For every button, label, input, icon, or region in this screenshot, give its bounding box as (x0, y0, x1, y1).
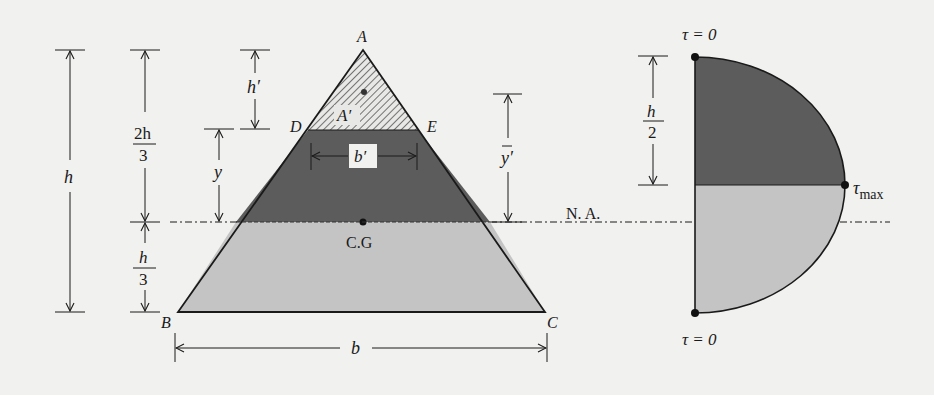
a-prime-centroid-dot (361, 89, 367, 95)
dim-label-h-prime: h′ (247, 77, 261, 97)
dim-label-h: h (64, 167, 73, 187)
dimension-2h-over-3: 2h 3 (130, 50, 160, 222)
vertex-c: C (547, 314, 558, 331)
dimension-y: y (204, 129, 234, 221)
bottom-zero-dot (691, 309, 699, 317)
dim-h3-denominator: 3 (139, 270, 148, 289)
stress-dark-region (695, 57, 845, 185)
dimension-h-prime: h′ (240, 50, 270, 129)
vertex-a: A (356, 28, 367, 45)
vertex-d: D (289, 118, 302, 135)
stress-light-region (695, 185, 845, 313)
shear-stress-diagram: A′ b′ C.G A D E B C N. A. h (0, 0, 934, 395)
tau-zero-top-label: τ = 0 (682, 25, 717, 44)
dim-h2-denominator: 2 (648, 123, 657, 142)
max-stress-dot (841, 181, 849, 189)
dim-h2-numerator: h (647, 102, 656, 121)
dim-label-y: y (212, 162, 222, 182)
dim-2h3-denominator: 3 (139, 146, 148, 165)
dim-label-b: b (351, 338, 360, 358)
dim-2h3-numerator: 2h (134, 124, 152, 143)
centroid-label: C.G (346, 234, 373, 251)
stress-distribution: τ = 0 τ = 0 τmax h 2 (638, 25, 884, 349)
neutral-axis-label: N. A. (566, 205, 600, 222)
tau-zero-bottom-label: τ = 0 (682, 330, 717, 349)
dim-label-y-bar-prime: y′ (499, 148, 514, 168)
dimension-h-over-3: h 3 (130, 223, 160, 312)
dimension-h: h (55, 50, 85, 312)
area-label-a-prime: A′ (336, 106, 351, 125)
dim-h3-numerator: h (139, 248, 148, 267)
dimension-y-bar-prime: y′ (492, 94, 522, 222)
dimension-b: b (175, 333, 547, 362)
width-label-b-prime: b′ (354, 147, 367, 166)
vertex-e: E (426, 118, 437, 135)
top-zero-dot (691, 53, 699, 61)
tau-max-label: τmax (853, 178, 884, 202)
vertex-b: B (161, 314, 171, 331)
